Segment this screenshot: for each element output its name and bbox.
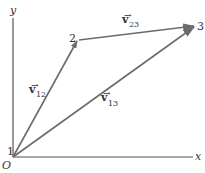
svg-text:13: 13 <box>108 99 118 108</box>
svg-text:12: 12 <box>36 90 46 99</box>
vector-v12-label: → v 12 <box>28 80 46 99</box>
origin-label: O <box>2 159 11 172</box>
svg-text:v: v <box>121 13 129 26</box>
vector-v23-label: → v 23 <box>121 10 139 29</box>
vector-v12 <box>13 41 77 157</box>
x-axis-label: x <box>195 150 202 163</box>
point-2-label: 2 <box>69 32 76 45</box>
vector-diagram: y x O 1 2 3 → v 12 → v 23 → v 13 <box>0 0 205 173</box>
point-1-label: 1 <box>7 145 14 158</box>
y-axis-label: y <box>9 4 17 17</box>
svg-text:v: v <box>28 83 36 96</box>
point-3-label: 3 <box>197 20 204 33</box>
vector-v13-label: → v 13 <box>100 88 118 108</box>
svg-text:23: 23 <box>129 20 139 29</box>
svg-text:v: v <box>100 91 108 104</box>
